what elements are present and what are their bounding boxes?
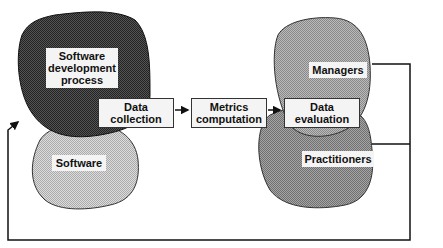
data-evaluation-box: Data evaluation: [284, 98, 360, 128]
data-collection-box: Data collection: [98, 98, 174, 128]
practitioners-label: Practitioners: [302, 151, 374, 167]
managers-label: Managers: [309, 62, 367, 78]
software-label: Software: [52, 155, 106, 171]
software-process-label: Software development process: [46, 48, 118, 88]
diagram: Software development process Software Ma…: [0, 0, 443, 248]
metrics-computation-box: Metrics computation: [191, 98, 267, 128]
